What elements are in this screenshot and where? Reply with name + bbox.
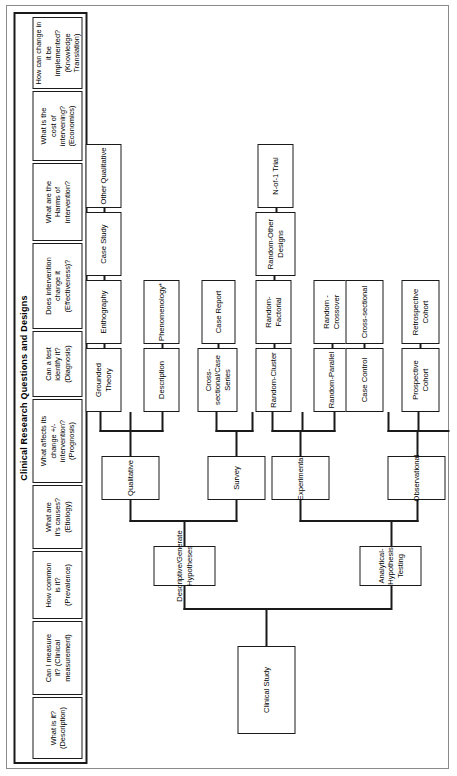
edge-root-spine-down [265, 608, 391, 610]
edge-q-leaf-1 [99, 412, 101, 432]
node-clinical-study[interactable]: Clinical Study [237, 646, 295, 734]
leaf-case-study[interactable]: Case Study [85, 212, 121, 276]
edge-o-leaf-1 [387, 412, 389, 432]
edge-analytical-spine-down [390, 520, 418, 522]
edge-survey-out [235, 430, 237, 456]
edge-to-qualitative [129, 500, 131, 522]
edge-to-experimental [299, 500, 301, 522]
question-box-diagnosis: Can a test identify it? (Diagnosis) [32, 331, 82, 397]
leaf-random-factorial[interactable]: Random- Factorial [255, 280, 291, 344]
question-box-etiology: What are it's causes? (Etiology) [32, 485, 82, 549]
edge-descriptive-spine-up [129, 520, 185, 522]
edge-q-leaf-2 [129, 412, 131, 432]
edge-qualitative-out [129, 430, 131, 456]
edge-root-out [265, 608, 267, 646]
edge-to-observational [416, 500, 418, 522]
edge-to-analytical [390, 586, 392, 610]
edge-s-leaf-1 [215, 412, 217, 432]
leaf-random-parallel[interactable]: Random-Parallel [313, 348, 349, 412]
edge-s-leaf-2 [251, 412, 253, 432]
question-box-description: What is it? (Description) [32, 697, 82, 759]
question-box-economics: What is the cost of intervening? (Econom… [32, 91, 82, 161]
leaf-prospective-cohort[interactable]: Prospective Cohort [401, 348, 439, 412]
edge-e-leaf-2 [301, 412, 303, 432]
figure-canvas: Clinical Research Questions and Designs … [7, 6, 450, 770]
edge-o-leaf-2 [417, 412, 419, 432]
leaf-n-of-1-trial[interactable]: N-of-1 Trial [257, 144, 293, 208]
leaf-phenomenology[interactable]: Phenomenology* [143, 280, 179, 344]
header-band: Clinical Research Questions and Designs … [13, 12, 87, 764]
leaf-enthography[interactable]: Enthography [85, 280, 121, 344]
edge-e-leaf-3 [333, 412, 335, 432]
leaf-retrospective-cohort[interactable]: Retrospective Cohort [401, 280, 439, 344]
figure-title: Clinical Research Questions and Designs [15, 14, 31, 762]
node-analytical-hypothesis-testing[interactable]: Analytical-Hypothesis Testing [359, 546, 421, 586]
node-descriptive-generate-hypotheses[interactable]: Descriptive/Generate Hypotheses [153, 546, 215, 586]
leaf-cross-sectional-case-series[interactable]: Cross-sectional/Case Series [197, 348, 237, 412]
edge-e-leaf-1 [271, 412, 273, 432]
question-box-prognosis: What affects its change +/- intervention… [32, 399, 82, 483]
node-observational[interactable]: Observational [387, 456, 445, 500]
leaf-random-other-designs[interactable]: Random-Other Designs [255, 212, 295, 276]
leaf-case-report[interactable]: Case Report [201, 280, 235, 344]
node-qualitative[interactable]: Qualitative [101, 456, 159, 500]
edge-q-leaf-3 [161, 412, 163, 432]
edge-analytical-spine-up [299, 520, 391, 522]
edge-survey-spine [215, 430, 253, 432]
edge-analytical-out [390, 520, 392, 546]
question-box-prevalence: How common is it? (Prevalence) [32, 551, 82, 619]
question-box-clinical-measurement: Can I measure it? (Clinical measurement) [32, 621, 82, 695]
question-box-effectiveness: Does intervention change it (Effectivene… [32, 243, 82, 329]
edge-experimental-out [299, 430, 301, 456]
research-questions-strip: What is it? (Description) Can I measure … [32, 17, 82, 759]
node-experimental[interactable]: Experimental [271, 456, 329, 500]
leaf-description[interactable]: Description [143, 348, 179, 412]
leaf-random-cluster[interactable]: Random-Cluster [255, 348, 291, 412]
question-box-knowledge-translation: How can change in it be implemented? (Kn… [32, 17, 82, 89]
leaf-grounded-theory[interactable]: Grounded Theory [85, 348, 121, 412]
node-survey[interactable]: Survey [207, 456, 265, 500]
edge-descriptive-spine-down [183, 520, 237, 522]
edge-observational-out [416, 430, 418, 456]
question-box-harms: What are the Harms of intervention? [32, 163, 82, 241]
edge-root-spine-up [183, 608, 267, 610]
leaf-cross-sectional[interactable]: Cross-sectional [345, 280, 383, 344]
edge-to-survey [235, 500, 237, 522]
leaf-case-control[interactable]: Case Control [345, 348, 383, 412]
leaf-random-crossover[interactable]: Random - Crossover [313, 280, 349, 344]
research-design-tree: Clinical Study Descriptive/Generate Hypo… [87, 6, 447, 770]
rotated-figure-wrapper: Clinical Research Questions and Designs … [0, 0, 457, 776]
leaf-other-qualitative[interactable]: Other Qualitative [85, 144, 121, 208]
